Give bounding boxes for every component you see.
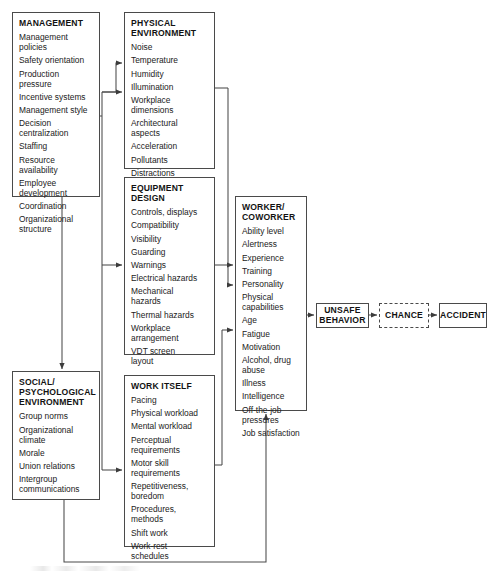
node-item: Motor skill requirements	[131, 458, 208, 478]
terminal-unsafe-behavior[interactable]: UNSAFE BEHAVIOR	[316, 303, 369, 328]
node-item: Guarding	[131, 247, 208, 257]
node-item: Intelligence	[242, 391, 300, 401]
node-item: Group norms	[19, 411, 93, 421]
node-worker-coworker-title: WORKER/ COWORKER	[242, 202, 300, 222]
node-item: Architectural aspects	[131, 118, 208, 138]
node-item: Warnings	[131, 260, 208, 270]
node-item: Intergroup communications	[19, 474, 93, 494]
node-item: Shift work	[131, 528, 208, 538]
node-management[interactable]: MANAGEMENT Management policiesSafety ori…	[12, 12, 100, 197]
node-item: Thermal hazards	[131, 310, 208, 320]
node-physical-environment-items: NoiseTemperatureHumidityIlluminationWork…	[131, 42, 208, 178]
terminal-unsafe-behavior-label: UNSAFE BEHAVIOR	[319, 306, 365, 326]
node-item: Morale	[19, 448, 93, 458]
node-item: Union relations	[19, 461, 93, 471]
node-item: Workplace arrangement	[131, 323, 208, 343]
terminal-accident-label: ACCIDENT	[440, 311, 486, 321]
node-item: Coordination	[19, 201, 93, 211]
node-item: VDT screen layout	[131, 346, 208, 366]
node-equipment-design-title: EQUIPMENT DESIGN	[131, 183, 208, 203]
node-worker-coworker-items: Ability levelAlertnessExperienceTraining…	[242, 226, 300, 438]
node-item: Safety orientation	[19, 55, 93, 65]
node-item: Electrical hazards	[131, 273, 208, 283]
node-item: Acceleration	[131, 141, 208, 151]
node-item: Temperature	[131, 55, 208, 65]
node-item: Age	[242, 315, 300, 325]
diagram-canvas: MANAGEMENT Management policiesSafety ori…	[0, 0, 499, 578]
node-item: Physical workload	[131, 408, 208, 418]
node-social-psychological-environment-title: SOCIAL/ PSYCHOLOGICAL ENVIRONMENT	[19, 377, 93, 407]
node-item: Incentive systems	[19, 92, 93, 102]
node-item: Mental workload	[131, 421, 208, 431]
node-worker-coworker[interactable]: WORKER/ COWORKER Ability levelAlertnessE…	[235, 196, 307, 411]
node-item: Staffing	[19, 141, 93, 151]
node-item: Job satisfaction	[242, 428, 300, 438]
node-management-items: Management policiesSafety orientationPro…	[19, 32, 93, 234]
node-work-itself[interactable]: WORK ITSELF PacingPhysical workloadMenta…	[124, 375, 215, 547]
node-item: Decision centralization	[19, 118, 93, 138]
node-item: Perceptual requirements	[131, 435, 208, 455]
node-item: Organizational structure	[19, 214, 93, 234]
terminal-chance-label: CHANCE	[385, 311, 423, 321]
node-item: Controls, displays	[131, 207, 208, 217]
node-item: Employee development	[19, 178, 93, 198]
node-item: Noise	[131, 42, 208, 52]
node-item: Ability level	[242, 226, 300, 236]
flow-management-to-physical	[102, 63, 122, 92]
node-item: Off-the-job pressures	[242, 405, 300, 425]
node-item: Compatibility	[131, 220, 208, 230]
node-item: Fatigue	[242, 329, 300, 339]
node-item: Resource availability	[19, 155, 93, 175]
node-item: Pacing	[131, 395, 208, 405]
node-item: Illness	[242, 378, 300, 388]
node-item: Management style	[19, 105, 93, 115]
scan-artifact	[30, 566, 140, 571]
node-item: Production pressure	[19, 69, 93, 89]
node-work-itself-items: PacingPhysical workloadMental workloadPe…	[131, 395, 208, 561]
node-physical-environment-title: PHYSICAL ENVIRONMENT	[131, 18, 208, 38]
node-item: Organizational climate	[19, 425, 93, 445]
node-item: Motivation	[242, 342, 300, 352]
node-work-itself-title: WORK ITSELF	[131, 381, 208, 391]
node-item: Procedures, methods	[131, 504, 208, 524]
node-item: Pollutants	[131, 155, 208, 165]
node-item: Personality	[242, 279, 300, 289]
node-item: Workplace dimensions	[131, 95, 208, 115]
node-item: Humidity	[131, 69, 208, 79]
node-item: Experience	[242, 253, 300, 263]
terminal-accident[interactable]: ACCIDENT	[439, 303, 487, 328]
node-item: Mechanical hazards	[131, 286, 208, 306]
node-management-title: MANAGEMENT	[19, 18, 93, 28]
node-item: Alcohol, drug abuse	[242, 355, 300, 375]
node-equipment-design-items: Controls, displaysCompatibilityVisibilit…	[131, 207, 208, 366]
node-social-psychological-environment[interactable]: SOCIAL/ PSYCHOLOGICAL ENVIRONMENT Group …	[12, 371, 100, 500]
node-item: Training	[242, 266, 300, 276]
node-item: Illumination	[131, 82, 208, 92]
terminal-chance[interactable]: CHANCE	[379, 303, 429, 328]
node-item: Repetitiveness, boredom	[131, 481, 208, 501]
node-item: Management policies	[19, 32, 93, 52]
node-item: Alertness	[242, 239, 300, 249]
node-equipment-design[interactable]: EQUIPMENT DESIGN Controls, displaysCompa…	[124, 177, 215, 355]
node-item: Visibility	[131, 234, 208, 244]
node-item: Physical capabilities	[242, 292, 300, 312]
node-item: Work-rest schedules	[131, 541, 208, 561]
node-physical-environment[interactable]: PHYSICAL ENVIRONMENT NoiseTemperatureHum…	[124, 12, 215, 169]
node-social-psychological-environment-items: Group normsOrganizational climateMoraleU…	[19, 411, 93, 494]
